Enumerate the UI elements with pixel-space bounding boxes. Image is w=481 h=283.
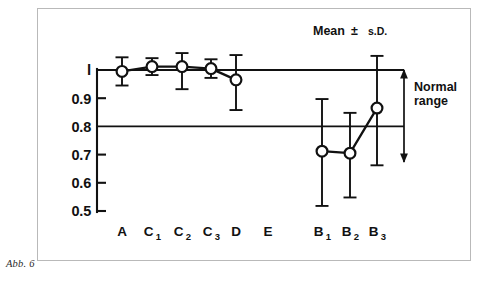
svg-text:C: C bbox=[144, 224, 154, 239]
svg-text:B: B bbox=[342, 224, 352, 239]
mean-sd-annotation-unit: s.D. bbox=[368, 25, 387, 37]
x-tick-label-B3: B3 bbox=[369, 224, 387, 242]
svg-text:C: C bbox=[203, 224, 213, 239]
data-point-C2 bbox=[177, 61, 188, 72]
normal-range-indicator bbox=[400, 69, 408, 163]
mean-sd-annotation-word: Mean bbox=[313, 24, 345, 38]
y-tick-label-0.8: 0.8 bbox=[71, 119, 91, 135]
plus-minus-icon: ± bbox=[351, 24, 358, 38]
svg-text:3: 3 bbox=[215, 231, 220, 242]
svg-text:1: 1 bbox=[156, 231, 162, 242]
normal-range-label-line1: Normal bbox=[414, 80, 457, 94]
svg-text:1: 1 bbox=[326, 231, 332, 242]
svg-text:B: B bbox=[314, 224, 324, 239]
svg-text:C: C bbox=[174, 224, 184, 239]
series-group-right bbox=[316, 56, 384, 206]
data-point-C3 bbox=[206, 63, 217, 74]
series-group-left bbox=[116, 53, 243, 110]
y-tick-label-1: l bbox=[87, 61, 91, 78]
y-axis: l0.90.80.70.60.5 bbox=[71, 61, 106, 219]
data-point-B3 bbox=[372, 103, 383, 114]
svg-text:A: A bbox=[117, 224, 127, 239]
data-point-C1 bbox=[147, 61, 158, 72]
x-tick-label-B2: B2 bbox=[342, 224, 360, 242]
data-point-B1 bbox=[317, 146, 328, 157]
x-tick-label-A: A bbox=[117, 224, 127, 239]
x-tick-label-E: E bbox=[263, 224, 272, 239]
y-tick-label-0.9: 0.9 bbox=[71, 91, 91, 107]
x-tick-label-B1: B1 bbox=[314, 224, 332, 242]
x-axis-labels: AC1C2C3DEB1B2B3 bbox=[117, 224, 386, 242]
y-tick-label-0.6: 0.6 bbox=[71, 175, 91, 191]
y-tick-label-0.5: 0.5 bbox=[71, 203, 91, 219]
svg-text:D: D bbox=[231, 224, 241, 239]
error-bar-chart: l0.90.80.70.60.5 AC1C2C3DEB1B2B3 Mean ± … bbox=[0, 0, 481, 283]
svg-text:2: 2 bbox=[186, 231, 191, 242]
figure-plate: l0.90.80.70.60.5 AC1C2C3DEB1B2B3 Mean ± … bbox=[0, 0, 481, 283]
svg-text:B: B bbox=[369, 224, 379, 239]
figure-caption: Abb. 6 bbox=[6, 258, 35, 269]
data-point-B2 bbox=[345, 148, 356, 159]
data-point-A bbox=[117, 66, 128, 77]
svg-text:E: E bbox=[263, 224, 272, 239]
svg-text:3: 3 bbox=[381, 231, 386, 242]
x-tick-label-C2: C2 bbox=[174, 224, 192, 242]
y-tick-label-0.7: 0.7 bbox=[71, 147, 91, 163]
x-tick-label-D: D bbox=[231, 224, 241, 239]
x-tick-label-C3: C3 bbox=[203, 224, 221, 242]
data-point-D bbox=[231, 74, 242, 85]
x-tick-label-C1: C1 bbox=[144, 224, 162, 242]
svg-text:2: 2 bbox=[354, 231, 359, 242]
normal-range-label-line2: range bbox=[414, 94, 448, 108]
reference-lines bbox=[97, 70, 404, 126]
